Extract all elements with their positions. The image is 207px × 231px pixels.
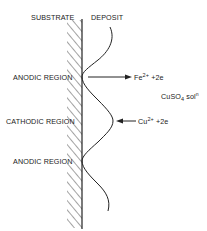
deposit-label: DEPOSIT — [91, 13, 124, 22]
fe-arrowhead-icon — [125, 75, 132, 80]
substrate-label: SUBSTRATE — [31, 13, 75, 22]
cu-arrowhead-icon — [116, 119, 123, 124]
cu-reaction-label: Cu2+ +2e — [138, 116, 168, 127]
fe-reaction-label: Fe2+ +2e — [134, 72, 164, 83]
anodic-region-label-bottom: ANODIC REGION — [13, 157, 73, 166]
corrosion-diagram: SUBSTRATE DEPOSIT ANODIC REGION CATHODIC… — [0, 0, 207, 231]
cathodic-region-label: CATHODIC REGION — [6, 117, 75, 126]
anodic-region-label-top: ANODIC REGION — [13, 73, 73, 82]
deposit-curve — [82, 27, 113, 211]
solution-label: CuSO4 soln — [161, 91, 199, 102]
